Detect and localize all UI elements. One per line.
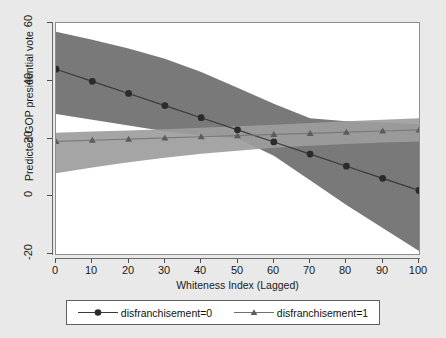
y-axis-line <box>52 22 53 255</box>
y-tick-label: 0 <box>22 177 34 211</box>
x-tick-label: 80 <box>330 264 360 276</box>
x-tick-label: 50 <box>222 264 252 276</box>
x-tick-mark <box>382 259 383 263</box>
x-axis-title: Whiteness Index (Lagged) <box>55 279 420 291</box>
legend-marker-triangle-icon <box>234 307 274 318</box>
x-tick-label: 10 <box>76 264 106 276</box>
y-tick-label: -20 <box>22 235 34 269</box>
x-tick-label: 40 <box>185 264 215 276</box>
data-point-marker <box>270 139 277 146</box>
legend-item[interactable]: disfranchisement=0 <box>78 307 212 319</box>
y-tick-mark <box>47 253 52 254</box>
data-point-marker <box>307 151 314 158</box>
legend-marker-circle-icon <box>78 307 118 318</box>
x-tick-mark <box>91 259 92 263</box>
x-tick-label: 0 <box>40 264 70 276</box>
x-tick-mark <box>237 259 238 263</box>
x-tick-mark <box>200 259 201 263</box>
x-tick-label: 20 <box>113 264 143 276</box>
data-point-marker <box>125 90 132 97</box>
x-tick-label: 90 <box>367 264 397 276</box>
legend-label: disfranchisement=0 <box>121 307 212 319</box>
y-tick-label: 20 <box>22 120 34 154</box>
y-tick-mark <box>47 80 52 81</box>
x-tick-label: 60 <box>258 264 288 276</box>
x-tick-label: 70 <box>294 264 324 276</box>
y-tick-mark <box>47 195 52 196</box>
data-point-marker <box>379 175 386 182</box>
data-point-marker <box>343 163 350 170</box>
x-tick-label: 30 <box>149 264 179 276</box>
x-tick-label: 100 <box>403 264 433 276</box>
x-tick-mark <box>128 259 129 263</box>
x-tick-mark <box>273 259 274 263</box>
chart-legend: disfranchisement=0 disfranchisement=1 <box>66 300 380 325</box>
y-tick-label: 40 <box>22 62 34 96</box>
x-tick-mark <box>345 259 346 263</box>
data-point-marker <box>162 102 169 109</box>
x-tick-mark <box>309 259 310 263</box>
chart-figure: Predicted GOP presidential vote -2002040… <box>0 0 446 338</box>
data-point-marker <box>198 114 205 121</box>
x-tick-mark <box>418 259 419 263</box>
x-tick-mark <box>55 259 56 263</box>
plot-canvas <box>56 23 419 254</box>
y-tick-mark <box>47 22 52 23</box>
legend-label: disfranchisement=1 <box>277 307 368 319</box>
plot-area <box>55 22 420 255</box>
legend-item[interactable]: disfranchisement=1 <box>234 307 368 319</box>
y-tick-label: 60 <box>22 4 34 38</box>
x-tick-mark <box>164 259 165 263</box>
y-tick-mark <box>47 138 52 139</box>
data-point-marker <box>89 78 96 85</box>
